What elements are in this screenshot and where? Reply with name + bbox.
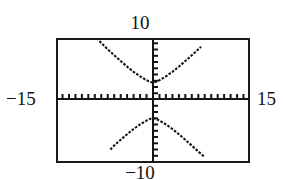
y-max-label: 10 bbox=[0, 13, 283, 32]
x-max-label: 15 bbox=[257, 89, 276, 108]
graph-figure: 10 −10 −15 15 bbox=[0, 0, 283, 180]
hyperbola-upper-branch bbox=[97, 38, 201, 83]
plot-area bbox=[56, 38, 250, 163]
x-min-label: −15 bbox=[6, 89, 36, 108]
y-min-label: −10 bbox=[0, 163, 283, 180]
